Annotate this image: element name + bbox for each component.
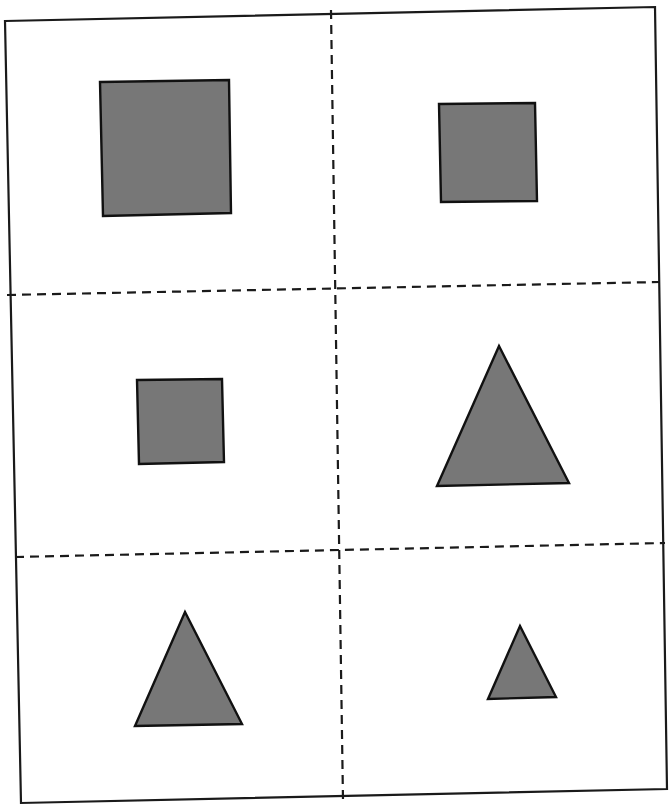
large-square-shape: [100, 80, 231, 216]
worksheet-page: [0, 0, 670, 806]
cell-row1-col1: [100, 80, 231, 216]
small-square-shape: [137, 379, 224, 464]
medium-square-shape: [439, 103, 537, 202]
cell-row1-col2: [439, 103, 537, 202]
cell-row2-col1: [137, 379, 224, 464]
